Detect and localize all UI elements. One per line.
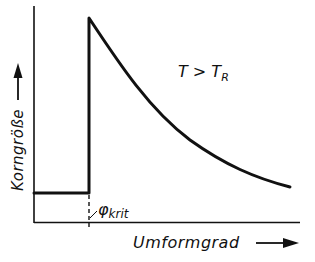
critical-label-pointer	[90, 211, 97, 218]
plot-area	[0, 0, 315, 262]
temperature-condition-label: T > TR	[178, 62, 229, 84]
diagram: Korngröße Umformgrad T > TR φkrit	[0, 0, 315, 262]
y-axis-label: Korngröße	[9, 109, 27, 191]
grain-size-curve	[34, 18, 290, 193]
x-axis-arrow-icon	[283, 238, 299, 248]
critical-sub: krit	[109, 207, 129, 221]
condition-main: T > T	[178, 62, 221, 81]
x-axis-label: Umformgrad	[133, 233, 240, 252]
critical-main: φ	[98, 200, 109, 219]
critical-deformation-label: φkrit	[98, 200, 128, 221]
condition-sub: R	[221, 71, 229, 84]
y-axis-arrow-icon	[14, 63, 23, 78]
